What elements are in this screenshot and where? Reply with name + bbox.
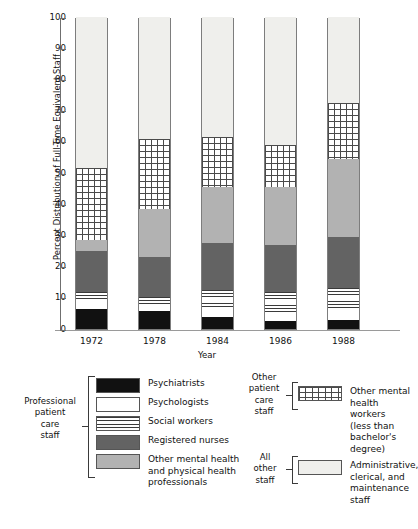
segment-other_professionals-1972	[76, 240, 107, 251]
swatch-registered-nurses	[96, 435, 140, 450]
chart-area: Percent Distribution of Full-Time Equiva…	[0, 0, 414, 370]
legend-item-other-mh-workers[interactable]: Other mental health workers (less than b…	[298, 386, 414, 456]
segment-social_workers-1984	[202, 290, 233, 307]
legend-label: Psychiatrists	[148, 378, 205, 390]
y-tick-mark	[60, 174, 66, 175]
segment-psychiatrists-1978	[139, 311, 170, 329]
y-tick-mark	[60, 49, 66, 50]
bracket-stub-all-other	[286, 469, 293, 470]
legend-item-other-professionals[interactable]: Other mental health and physical health …	[96, 454, 239, 489]
x-tick-label-1984: 1984	[195, 336, 241, 346]
segment-social_workers-1988	[328, 288, 359, 310]
swatch-psychiatrists	[96, 378, 140, 393]
segment-psychiatrists-1986	[265, 321, 296, 329]
legend-label: Other mental	[350, 386, 414, 398]
chart-legend: Professional patient care staff Psychiat…	[0, 372, 414, 529]
bracket-line: other	[240, 463, 290, 474]
segment-psychologists-1984	[202, 307, 233, 316]
legend-label: (less than bachelor's	[350, 421, 414, 444]
segment-psychiatrists-1972	[76, 309, 107, 329]
legend-item-psychiatrists[interactable]: Psychiatrists	[96, 378, 205, 393]
segment-admin_clerical-1986	[265, 17, 296, 145]
segment-social_workers-1972	[76, 292, 107, 301]
y-tick-mark	[60, 142, 66, 143]
bracket-line: patient	[14, 407, 86, 418]
segment-other_professionals-1978	[139, 209, 170, 257]
segment-other_mh_workers-1986	[265, 145, 296, 187]
x-tick-label-1986: 1986	[258, 336, 304, 346]
segment-admin_clerical-1972	[76, 17, 107, 168]
swatch-other-professionals	[96, 454, 140, 469]
y-tick-mark	[60, 80, 66, 81]
legend-label: Psychologists	[148, 397, 209, 409]
segment-other_professionals-1988	[328, 159, 359, 237]
segment-other_mh_workers-1978	[139, 139, 170, 209]
swatch-admin	[298, 460, 342, 475]
y-tick-mark	[60, 111, 66, 112]
legend-label-block: Other mental health and physical health …	[148, 454, 239, 489]
segment-admin_clerical-1988	[328, 17, 359, 103]
legend-label: professionals	[148, 477, 239, 489]
segment-other_mh_workers-1972	[76, 168, 107, 240]
segment-registered_nurses-1972	[76, 251, 107, 292]
y-tick-mark	[60, 298, 66, 299]
legend-label: Other mental health	[148, 454, 239, 466]
legend-item-registered-nurses[interactable]: Registered nurses	[96, 435, 229, 450]
segment-other_professionals-1984	[202, 187, 233, 243]
x-tick-label-1972: 1972	[69, 336, 115, 346]
legend-item-social-workers[interactable]: Social workers	[96, 416, 213, 431]
legend-label: maintenance	[350, 483, 418, 495]
legend-label: and physical health	[148, 466, 239, 478]
legend-label-block: Administrative, clerical, and maintenanc…	[350, 460, 418, 506]
segment-admin_clerical-1978	[139, 17, 170, 139]
legend-item-psychologists[interactable]: Psychologists	[96, 397, 209, 412]
segment-social_workers-1986	[265, 292, 296, 312]
y-tick-mark	[60, 205, 66, 206]
legend-label: Administrative,	[350, 460, 418, 472]
segment-psychologists-1986	[265, 312, 296, 321]
swatch-psychologists	[96, 397, 140, 412]
bar-1978	[138, 18, 171, 330]
x-axis-line	[55, 330, 400, 331]
x-tick-label-1988: 1988	[321, 336, 367, 346]
segment-psychiatrists-1988	[328, 320, 359, 329]
y-tick-mark	[60, 236, 66, 237]
bracket-line: All	[240, 452, 290, 463]
bracket-line: staff	[14, 430, 86, 441]
x-tick-label-1978: 1978	[132, 336, 178, 346]
bracket-line: care	[14, 419, 86, 430]
legend-label: Social workers	[148, 416, 213, 428]
bracket-line: staff	[240, 475, 290, 486]
swatch-social-workers	[96, 416, 140, 431]
legend-label: Registered nurses	[148, 435, 229, 447]
segment-psychologists-1988	[328, 310, 359, 319]
segment-registered_nurses-1984	[202, 243, 233, 290]
bracket-line: patient	[238, 383, 290, 394]
legend-item-admin[interactable]: Administrative, clerical, and maintenanc…	[298, 460, 418, 506]
segment-social_workers-1978	[139, 297, 170, 305]
y-tick-mark	[60, 18, 66, 19]
segment-other_mh_workers-1988	[328, 103, 359, 159]
y-tick-mark	[60, 267, 66, 268]
bar-1988	[327, 18, 360, 330]
segment-admin_clerical-1984	[202, 17, 233, 137]
segment-other_professionals-1986	[265, 187, 296, 245]
segment-psychiatrists-1984	[202, 317, 233, 329]
bracket-shape-professional	[88, 376, 95, 478]
segment-registered_nurses-1988	[328, 237, 359, 288]
legend-bracket-other-patient: Other patient care staff	[238, 372, 290, 418]
bracket-stub-professional	[82, 426, 89, 427]
bracket-line: Professional	[14, 396, 86, 407]
legend-label: degree)	[350, 444, 414, 456]
legend-label: clerical, and	[350, 472, 418, 484]
legend-bracket-all-other: All other staff	[240, 452, 290, 486]
segment-other_mh_workers-1984	[202, 137, 233, 187]
bar-1986	[264, 18, 297, 330]
y-tick-mark	[60, 330, 66, 331]
plot-bars	[60, 18, 400, 330]
bracket-line: staff	[238, 406, 290, 417]
segment-psychologists-1972	[76, 301, 107, 309]
bracket-line: care	[238, 395, 290, 406]
legend-label: health workers	[350, 398, 414, 421]
segment-registered_nurses-1978	[139, 257, 170, 297]
